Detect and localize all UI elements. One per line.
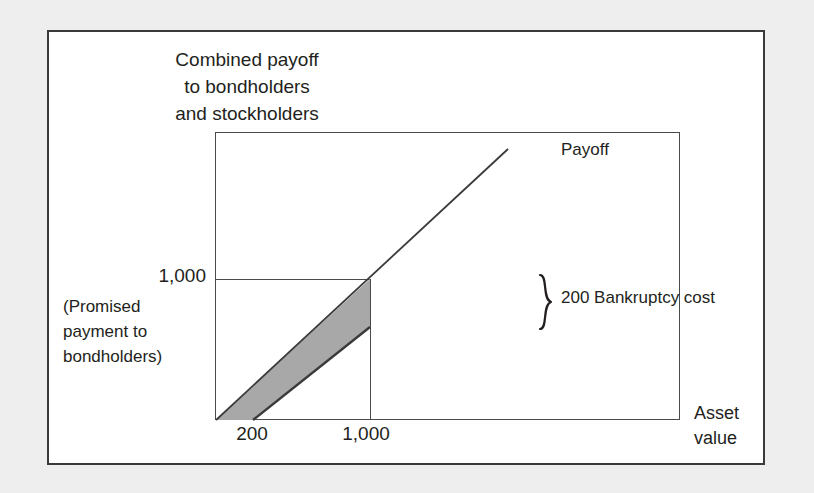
payoff-label: Payoff: [561, 140, 609, 160]
figure-title: Combined payoff to bondholders and stock…: [127, 46, 367, 127]
x-tick-200: 200: [217, 423, 287, 445]
figure-stage: Combined payoff to bondholders and stock…: [0, 0, 814, 493]
bankruptcy-cost-label: 200 Bankruptcy cost: [561, 288, 715, 308]
x-axis-title: Asset value: [694, 401, 784, 451]
x-tick-1000: 1,000: [321, 423, 411, 445]
plot-area: Payoff 200 Bankruptcy cost: [215, 132, 680, 420]
bankruptcy-cost-brace-icon: [536, 273, 562, 331]
y-axis-note: (Promised payment to bondholders): [63, 294, 211, 369]
figure-card: Combined payoff to bondholders and stock…: [47, 30, 765, 465]
y-axis-value-label: 1,000: [111, 265, 206, 287]
payoff-line: [216, 133, 681, 421]
